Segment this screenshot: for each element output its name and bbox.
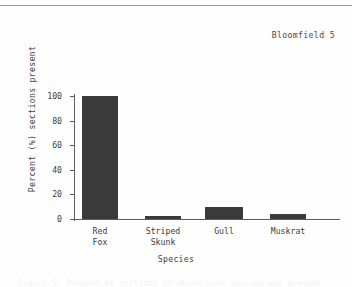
bar	[270, 214, 306, 219]
y-tick-label: 100	[47, 91, 62, 101]
bar	[145, 216, 181, 219]
x-axis-line	[74, 219, 340, 220]
y-tick: 100	[70, 96, 75, 97]
y-tick-label: 0	[57, 214, 62, 224]
y-tick-label: 20	[52, 189, 62, 199]
y-axis-line	[74, 94, 75, 221]
bar	[205, 207, 243, 219]
y-tick-label: 80	[52, 116, 62, 126]
y-tick: 60	[70, 145, 75, 146]
y-tick-label: 40	[52, 165, 62, 175]
category-label: Red Fox	[64, 226, 136, 247]
running-header: Bloomfield 5	[272, 30, 335, 40]
y-tick: 40	[70, 170, 75, 171]
bar	[82, 96, 118, 219]
document-page: Bloomfield 5 Percent (%) sections presen…	[0, 0, 352, 287]
y-tick: 80	[70, 121, 75, 122]
y-tick: 0	[70, 219, 75, 220]
plot-area: 020406080100 Red FoxStriped SkunkGullMus…	[75, 96, 340, 219]
y-tick-label: 60	[52, 140, 62, 150]
category-label: Gull	[187, 226, 261, 237]
bar-chart-figure: Percent (%) sections present 02040608010…	[0, 52, 352, 277]
category-label: Muskrat	[252, 226, 324, 237]
cut-off-caption: Figure 5. Percent of sections in which e…	[18, 279, 334, 287]
y-tick: 20	[70, 194, 75, 195]
page-top-rule	[0, 5, 352, 6]
y-axis-title: Percent (%) sections present	[27, 39, 37, 199]
x-axis-title: Species	[0, 254, 352, 264]
